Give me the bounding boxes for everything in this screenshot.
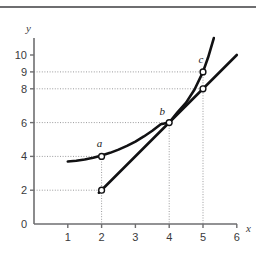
x-tick-label-1: 1 [65,231,71,243]
x-tick-label-3: 3 [132,231,138,243]
marker-point-p8 [200,86,206,92]
x-tick-label-6: 6 [234,231,240,243]
x-tick-label-2: 2 [99,231,105,243]
point-label-b: b [159,105,165,117]
y-tick-label-0: 0 [21,218,27,230]
figure-container: 02468910123456 abc y x [0,0,269,259]
series-group [68,38,237,193]
y-tick-label-9: 9 [21,66,27,78]
x-tick-label-4: 4 [166,231,172,243]
y-tick-label-10: 10 [15,49,27,61]
point-label-c: c [199,53,204,65]
point-label-a: a [97,137,103,149]
axes-group [34,38,237,224]
x-tick-label-5: 5 [200,231,206,243]
graph-canvas: 02468910123456 abc y x [0,0,269,259]
marker-point-a [99,154,105,160]
guide-lines-group [34,72,203,224]
y-axis-label: y [25,22,31,34]
y-tick-label-8: 8 [21,83,27,95]
marker-point-c [200,69,206,75]
marker-point-b [166,120,172,126]
marker-point-p2 [99,187,105,193]
y-tick-label-4: 4 [21,150,27,162]
x-axis-label: x [245,222,251,234]
y-tick-label-6: 6 [21,117,27,129]
y-tick-label-2: 2 [21,184,27,196]
